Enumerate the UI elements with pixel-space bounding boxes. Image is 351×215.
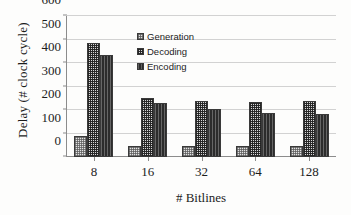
y-tick-label: 100 <box>42 110 62 126</box>
legend-item: Decoding <box>137 44 194 59</box>
legend-item: Encoding <box>137 59 194 74</box>
x-tick-label: 64 <box>249 164 262 180</box>
x-tick-mark <box>202 157 203 161</box>
bar-chart: Delay (# clock cycle) 010020030040050060… <box>0 0 351 215</box>
bar-decoding <box>141 98 154 157</box>
bar-decoding <box>249 102 262 157</box>
x-tick-label: 8 <box>91 164 98 180</box>
x-tick-label: 32 <box>195 164 208 180</box>
bar-encoding <box>316 114 329 157</box>
bars-layer <box>67 16 336 157</box>
bar-generation <box>182 146 195 157</box>
bar-decoding <box>195 101 208 157</box>
y-tick-label: 600 <box>42 0 62 8</box>
bar-encoding <box>100 55 113 157</box>
x-axis-title: # Bitlines <box>66 190 336 206</box>
bar-encoding <box>208 109 221 157</box>
y-tick-label: 200 <box>42 86 62 102</box>
x-tick-mark <box>148 157 149 161</box>
vertical-stripe-swatch <box>137 63 144 70</box>
y-tick-label: 0 <box>55 133 62 149</box>
bar-encoding <box>154 103 167 157</box>
checker-light-swatch <box>137 33 144 40</box>
bar-decoding <box>87 43 100 157</box>
bar-group <box>67 16 121 157</box>
y-tick-label: 400 <box>42 39 62 55</box>
bar-generation <box>236 146 249 157</box>
legend-label: Decoding <box>147 46 187 57</box>
legend-item: Generation <box>137 29 194 44</box>
y-tick-label: 500 <box>42 16 62 32</box>
y-tick-label: 300 <box>42 63 62 79</box>
x-tick-label: 128 <box>299 164 319 180</box>
x-tick-label: 16 <box>141 164 154 180</box>
checker-dark-swatch <box>137 48 144 55</box>
x-tick-mark <box>309 157 310 161</box>
y-axis-title: Delay (# clock cycle) <box>15 5 31 155</box>
bar-encoding <box>262 113 275 157</box>
legend-label: Encoding <box>147 61 187 72</box>
bar-decoding <box>303 101 316 157</box>
bar-generation <box>74 136 87 157</box>
bar-generation <box>128 146 141 157</box>
x-tick-mark <box>94 157 95 161</box>
bar-group <box>282 16 336 157</box>
legend-label: Generation <box>147 31 194 42</box>
plot-area: 0100200300400500600 8163264128 <box>66 16 336 157</box>
x-tick-mark <box>255 157 256 161</box>
bar-group <box>228 16 282 157</box>
legend: GenerationDecodingEncoding <box>137 29 194 74</box>
bar-generation <box>290 146 303 157</box>
